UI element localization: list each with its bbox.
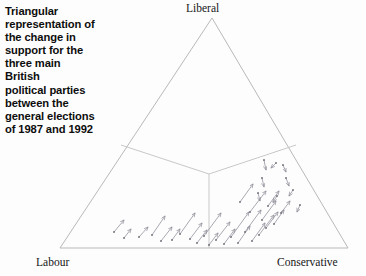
vector-origin-dot [292, 189, 294, 191]
change-vector [171, 229, 180, 241]
vector-arrow [124, 229, 131, 238]
vector-arrow [224, 229, 235, 244]
change-vector [230, 212, 249, 238]
vector-origin-dot [215, 239, 217, 241]
vector-arrow [289, 190, 293, 196]
vector-origin-dot [275, 162, 277, 164]
vector-origin-dot [189, 238, 191, 240]
vector-origin-dot [276, 195, 278, 197]
vector-origin-dot [223, 243, 225, 245]
change-vector [179, 213, 195, 235]
vector-origin-dot [113, 231, 115, 233]
change-vector [261, 177, 264, 187]
divider-to-left-edge [121, 145, 209, 174]
change-vector [189, 223, 202, 240]
change-vector [273, 210, 284, 225]
vector-arrow [139, 227, 148, 237]
change-vector [113, 220, 124, 233]
vector-origin-dot [249, 211, 251, 213]
vertex-label-conservative: Conservative [277, 256, 338, 268]
change-vector [138, 227, 148, 238]
change-vector [251, 223, 265, 242]
vector-origin-dot [261, 177, 263, 179]
change-vector [123, 229, 131, 239]
vector-origin-dot [171, 239, 173, 241]
vertex-label-labour: Labour [36, 256, 69, 268]
change-vector [223, 229, 235, 245]
vector-arrow [259, 215, 274, 235]
vector-arrow [161, 227, 172, 241]
vector-origin-dot [299, 204, 301, 206]
vector-origin-dot [258, 234, 260, 236]
vector-arrow [286, 178, 289, 186]
change-vector [271, 162, 277, 168]
vector-origin-dot [261, 219, 263, 221]
vector-arrow [114, 220, 124, 232]
change-vector [257, 192, 260, 201]
change-vector [239, 184, 253, 203]
change-vector [244, 210, 261, 233]
change-vector [160, 227, 172, 242]
vector-arrow [252, 223, 265, 241]
vector-origin-dot [230, 236, 232, 238]
vector-origin-dot [280, 212, 282, 214]
vector-arrow [262, 178, 264, 187]
vector-origin-dot [151, 234, 153, 236]
change-vector [282, 164, 286, 172]
divider-to-right-edge [209, 145, 296, 174]
vector-origin-dot [265, 227, 267, 229]
vector-arrow [180, 213, 195, 234]
ternary-plot [0, 0, 366, 276]
vector-origin-dot [239, 201, 241, 203]
change-vector [285, 177, 289, 186]
chart-canvas: Triangular representation of the change … [0, 0, 366, 276]
vector-origin-dot [160, 240, 162, 242]
vector-arrow [297, 205, 300, 212]
vector-origin-dot [273, 223, 275, 225]
vector-origin-dot [244, 231, 246, 233]
vector-origin-dot [285, 177, 287, 179]
change-vector [215, 222, 230, 241]
vector-arrow [245, 210, 261, 232]
vector-arrow [238, 226, 250, 243]
vector-arrow [231, 212, 249, 237]
change-vector [203, 213, 221, 237]
vector-origin-dot [267, 205, 269, 207]
change-vector [237, 226, 250, 244]
vector-arrow [172, 229, 180, 240]
vector-origin-dot [203, 235, 205, 237]
vector-arrow [271, 163, 276, 168]
vector-arrow [204, 213, 221, 236]
vector-origin-dot [282, 164, 284, 166]
vector-origin-dot [138, 236, 140, 238]
change-vector [289, 189, 294, 196]
vector-arrow [240, 184, 253, 202]
vector-origin-dot [257, 192, 259, 194]
vector-origin-dot [208, 244, 210, 246]
change-vector [196, 230, 207, 244]
change-vector [258, 215, 274, 236]
change-vector [249, 191, 266, 213]
vector-origin-dot [196, 242, 198, 244]
triangle-outline [60, 18, 348, 248]
vertex-label-liberal: Liberal [186, 2, 219, 14]
vector-origin-dot [123, 237, 125, 239]
vector-arrow [266, 212, 278, 228]
change-vector [280, 201, 290, 214]
vector-origin-dot [251, 240, 253, 242]
vector-arrow [197, 230, 207, 243]
change-vector-field [113, 159, 301, 246]
change-vector [263, 159, 266, 170]
change-vector [297, 204, 301, 212]
vector-arrow [152, 216, 165, 235]
change-vector [151, 216, 165, 236]
vector-arrow [281, 201, 290, 213]
region-dividers [121, 145, 296, 248]
vector-arrow [283, 165, 286, 172]
vector-arrow [190, 223, 202, 239]
vector-origin-dot [237, 242, 239, 244]
vector-arrow [274, 210, 284, 224]
vector-arrow [268, 191, 279, 206]
vector-origin-dot [263, 159, 265, 161]
vector-origin-dot [179, 233, 181, 235]
